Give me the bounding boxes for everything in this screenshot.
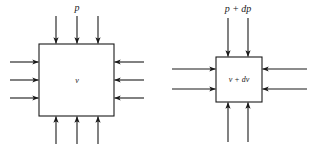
right-top-arrows: [228, 18, 248, 57]
right-element-group: p + dp v + dv: [172, 3, 307, 142]
right-left-side-arrows: [172, 69, 216, 89]
left-volume-label: v: [75, 76, 79, 85]
pressure-volume-element-figure: p v: [0, 0, 312, 149]
figure-canvas: p v: [0, 0, 312, 149]
left-element-group: p v: [10, 2, 144, 144]
left-top-arrows: [56, 16, 98, 44]
right-pressure-label: p + dp: [224, 3, 252, 14]
right-volume-label: v + dv: [229, 75, 250, 84]
right-right-side-arrows: [263, 69, 308, 89]
left-bottom-arrows: [56, 117, 98, 145]
left-side-arrows: [10, 62, 39, 98]
right-bottom-arrows: [228, 103, 248, 143]
left-right-side-arrows: [115, 62, 145, 98]
left-pressure-label: p: [74, 2, 80, 13]
